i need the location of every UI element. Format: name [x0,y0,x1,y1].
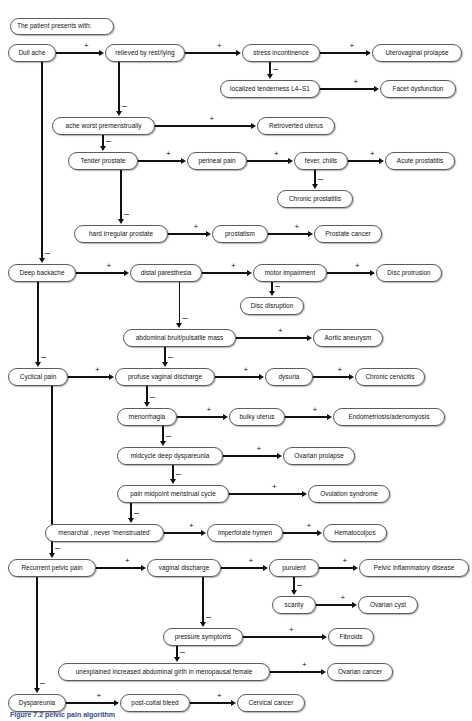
node-label: dysuria [279,374,300,380]
edge-line [271,282,273,291]
node-pid: Pelvic inflammatory disease [359,559,469,577]
node-label: Deep backache [19,270,64,276]
node-ache-premenstrual: ache worst premenstrually [52,117,155,135]
node-label: Chronic cervicitis [365,374,414,380]
edge-sign-negative: – [180,648,185,656]
edge-sign-negative: – [176,470,181,478]
edge-sign-positive: + [166,150,171,158]
node-fever-chills: fever, chills [294,152,348,170]
node-post-coital: post-coital bleed [120,694,190,712]
edge-line [202,577,204,622]
figure-caption: Figure 7.2 pelvic pain algorithm [10,711,115,718]
edge-sign-positive: + [343,557,348,565]
node-label: abdominal bruit/pulsatile mass [136,335,223,341]
node-label: post-coital bleed [131,700,178,706]
edge-line [348,160,379,162]
edge-sign-negative: – [297,581,302,589]
node-label: pressure symptoms [175,634,232,640]
edge-arrowhead [247,270,252,276]
edge-sign-positive: + [217,692,222,700]
edge-sign-positive: + [95,366,100,374]
edge-sign-negative: – [55,544,60,552]
node-retroverted: Retroverted uterus [257,117,335,135]
node-motor-impairment: motor impairment [253,264,327,282]
node-label: localized tenderness L4–S1 [230,86,310,92]
edge-sign-positive: + [295,223,300,231]
node-aortic-aneurysm: Aortic aneurysm [313,329,383,347]
node-label: Cyclical pain [20,374,57,380]
edge-arrowhead [267,74,273,79]
edge-line [236,337,307,339]
edge-arrowhead [231,700,236,706]
edge-arrowhead [160,441,166,446]
edge-arrowhead [49,553,55,558]
node-label: profuse vaginal discharge [128,374,202,380]
edge-arrowhead [288,158,293,164]
node-label: Endometriosis/adenomyosis [348,414,429,420]
edge-arrowhead [259,374,264,380]
edge-arrowhead [352,602,357,608]
edge-sign-positive: + [354,78,359,86]
edge-arrowhead [34,688,40,693]
node-label: midcycle deep dyspareunia [131,453,210,459]
edge-sign-positive: + [194,223,199,231]
edge-arrowhead [370,270,375,276]
node-label: Acute prostatitis [397,158,443,164]
node-label: prostatism [225,231,255,237]
edge-sign-negative: – [150,393,155,401]
edge-line [314,170,316,184]
edge-arrowhead [162,362,168,367]
node-label: Dyspareunia [19,700,55,706]
node-label: imperforate hymen [218,530,272,536]
edge-arrowhead [35,362,41,367]
edge-sign-positive: + [302,661,307,669]
edge-arrowhead [118,219,124,224]
node-ovulation-syndrome: Ovulation syndrome [308,485,390,503]
edge-line [270,671,321,673]
node-hard-prostate: hard irregular prostate [74,225,168,243]
edge-sign-positive: + [355,262,360,270]
edge-arrowhead [349,374,354,380]
node-label: Prostate cancer [325,231,371,237]
edge-line [138,160,181,162]
edge-line [221,567,263,569]
node-cervical-cancer: Cervical cancer [237,694,305,712]
node-label: scanty [285,602,304,608]
edge-line [130,503,132,518]
edge-sign-positive: + [272,483,277,491]
edge-line [41,62,43,258]
node-menorrhagia: menorrhagia [117,408,177,426]
edge-arrowhead [181,158,186,164]
edge-sign-positive: + [350,42,355,50]
node-label: Fibroids [339,634,362,640]
edge-sign-negative: – [166,432,171,440]
node-chronic-cervicitis: Chronic cervicitis [355,368,425,386]
edge-line [202,272,247,274]
node-deep-backache: Deep backache [8,264,76,282]
node-label: Chronic prostatitis [289,196,341,202]
edge-line [319,567,353,569]
edge-arrowhead [327,414,332,420]
edge-arrowhead [174,657,180,662]
edge-arrowhead [321,669,326,675]
edge-arrowhead [170,479,176,484]
edge-arrowhead [277,453,282,459]
edge-arrowhead [236,50,241,56]
edge-line [56,52,99,54]
node-label: The patient presents with: [17,23,91,29]
edge-arrowhead [99,50,104,56]
edge-line [76,272,124,274]
edge-sign-positive: + [217,42,222,50]
edge-sign-positive: + [289,626,294,634]
node-label: Retroverted uterus [269,123,323,129]
edge-line [164,347,166,362]
node-localized-tender: localized tenderness L4–S1 [220,80,320,98]
edge-line [313,376,349,378]
edge-arrowhead [263,565,268,571]
edge-line [176,646,178,657]
edge-sign-positive: + [244,366,249,374]
node-label: Disc disruption [251,303,294,309]
node-label: ache worst premenstrually [66,123,142,129]
node-purulent: purulent [269,559,319,577]
edge-line [164,532,201,534]
